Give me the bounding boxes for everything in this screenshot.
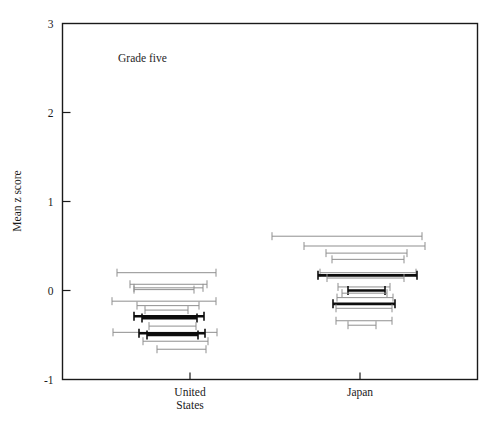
y-tick-label: 2 [48, 107, 54, 119]
x-category-label: United [174, 386, 206, 398]
x-category-label: Japan [347, 386, 373, 399]
y-axis-title: Mean z score [11, 170, 23, 231]
y-tick-label: 0 [48, 285, 54, 297]
y-tick-label: 3 [48, 18, 54, 30]
chart-svg: 3210-1 Mean z score UnitedStatesJapan Gr… [0, 0, 498, 424]
y-tick-label: 1 [48, 196, 54, 208]
y-tick-label: -1 [44, 374, 54, 386]
chart-background [0, 0, 498, 424]
chart-figure: 3210-1 Mean z score UnitedStatesJapan Gr… [0, 0, 498, 424]
x-category-label: States [176, 399, 204, 411]
grade-annotation: Grade five [118, 52, 167, 64]
